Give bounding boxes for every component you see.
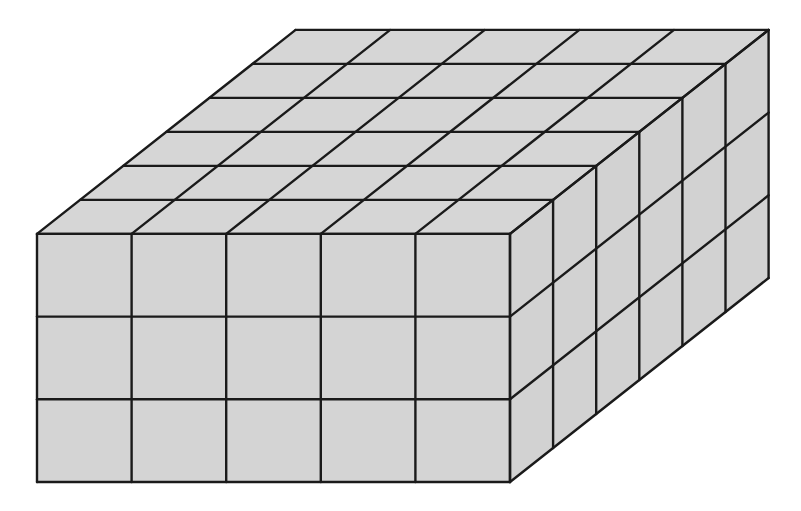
front-face bbox=[37, 234, 510, 482]
prism-svg bbox=[0, 0, 801, 511]
cube-prism-diagram bbox=[0, 0, 801, 511]
